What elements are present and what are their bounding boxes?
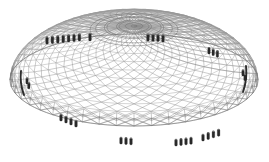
support-marker-cap (212, 130, 215, 132)
support-marker (65, 116, 68, 123)
brace-x2-1-6 (201, 102, 213, 114)
support-marker-cap (152, 34, 155, 36)
support-marker (212, 131, 215, 138)
brace-post-1-13 (99, 111, 100, 119)
diagrid-a-21 (88, 26, 186, 122)
support-marker-cap (175, 139, 178, 141)
figure-caption (0, 0, 269, 8)
base-rim-ellipse (10, 34, 258, 126)
support-marker-cap (28, 82, 30, 83)
support-marker (28, 83, 30, 89)
support-marker (147, 34, 150, 41)
support-marker (120, 137, 123, 144)
support-marker (244, 75, 246, 81)
perimeter-brace-group (10, 62, 258, 126)
support-marker-cap (207, 132, 210, 134)
support-marker-cap (190, 137, 193, 139)
support-marker (185, 138, 188, 145)
support-marker-cap (217, 129, 220, 131)
support-marker-cap (89, 33, 92, 35)
support-marker-cap (157, 34, 160, 36)
support-group-bottom-center (120, 137, 133, 145)
support-marker-cap (208, 47, 210, 48)
support-marker (60, 114, 63, 121)
brace-post-1-14 (83, 109, 84, 117)
support-marker-cap (26, 77, 28, 78)
brace-x2-1-16 (41, 102, 55, 105)
support-marker (217, 130, 220, 137)
support-marker (70, 118, 73, 125)
brace-x2-0-13 (82, 117, 99, 122)
brace-x2-1-7 (185, 106, 199, 117)
support-marker (208, 48, 210, 54)
support-marker (51, 37, 54, 44)
support-marker-cap (242, 69, 244, 70)
hoop-2 (14, 22, 255, 111)
support-marker-cap (73, 34, 76, 36)
support-marker (212, 49, 214, 55)
support-marker-cap (212, 48, 214, 49)
support-marker (162, 35, 165, 42)
support-marker (207, 133, 210, 140)
support-marker (46, 37, 49, 44)
support-marker-cap (65, 116, 68, 118)
support-marker-cap (216, 50, 218, 51)
support-marker-cap (46, 36, 49, 38)
diagrid-b-27 (82, 26, 180, 122)
support-marker (216, 51, 218, 57)
brace-x2-0-16 (40, 107, 53, 110)
support-marker (190, 138, 193, 145)
support-marker (180, 139, 183, 146)
rim-outline-group (10, 34, 258, 126)
support-marker (157, 35, 160, 42)
support-group-bottom-right-b (202, 129, 220, 141)
support-marker-cap (78, 33, 81, 35)
hoop-0 (10, 34, 258, 126)
support-marker (152, 35, 155, 42)
brace-x2-0-12 (99, 118, 116, 124)
support-marker-cap (202, 134, 205, 136)
brace-x2-0-14 (67, 114, 83, 118)
support-marker-cap (70, 118, 73, 120)
support-marker (57, 36, 60, 43)
brace-x2-1-9 (152, 111, 169, 120)
support-marker (67, 35, 70, 42)
brace-post-1-9 (168, 111, 169, 119)
support-marker-group (26, 33, 246, 146)
support-marker-cap (75, 120, 78, 122)
support-marker (75, 120, 78, 127)
support-marker-cap (162, 34, 165, 36)
figure-canvas (0, 0, 269, 162)
brace-post-1-8 (184, 109, 185, 117)
support-marker-cap (120, 137, 123, 139)
support-marker-cap (185, 137, 188, 139)
gridshell-dome-wireframe (0, 0, 269, 162)
support-marker-cap (51, 36, 54, 38)
support-marker (130, 138, 133, 145)
support-marker (73, 35, 76, 42)
support-marker-cap (60, 114, 63, 116)
support-marker-cap (57, 35, 60, 37)
support-marker-cap (180, 138, 183, 140)
support-marker-cap (130, 137, 133, 139)
support-marker-cap (67, 34, 70, 36)
support-marker (89, 34, 92, 42)
support-marker (202, 134, 205, 141)
support-marker-cap (125, 137, 128, 139)
support-marker-cap (244, 74, 246, 75)
support-marker (62, 36, 65, 43)
diagrid-a-15 (126, 26, 253, 93)
support-group-bottom-right-a (175, 137, 193, 146)
support-group-upper-left-single (89, 33, 92, 41)
support-marker-cap (62, 35, 65, 37)
support-marker (78, 34, 81, 41)
support-marker (125, 138, 128, 145)
support-marker (175, 139, 178, 146)
support-marker-cap (147, 33, 150, 35)
